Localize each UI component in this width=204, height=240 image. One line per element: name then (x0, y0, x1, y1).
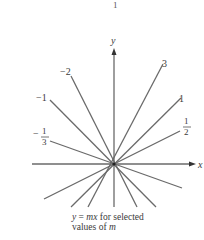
line-family-diagram: x y 3 1 1 2 − 1 3 −1 −2 (0, 0, 204, 240)
caption-line-1: y = mx for selected (72, 212, 144, 222)
svg-text:2: 2 (184, 127, 189, 137)
svg-text:3: 3 (42, 137, 47, 147)
label-m-neg-third: − 1 3 (33, 126, 49, 147)
svg-text:1: 1 (42, 126, 47, 136)
x-axis-arrow-icon (189, 162, 196, 167)
label-m-3: 3 (162, 58, 167, 69)
svg-text:−: − (33, 128, 39, 139)
label-m-neg-2: −2 (60, 66, 71, 77)
x-axis-label: x (197, 159, 203, 170)
line-m-neg-1 (50, 100, 156, 207)
label-m-neg-1: −1 (36, 92, 47, 103)
label-m-1: 1 (179, 93, 184, 104)
figure-caption: y = mx for selected values of m (72, 212, 144, 232)
line-m-half (44, 131, 180, 199)
svg-text:1: 1 (184, 116, 189, 126)
line-m-1 (71, 98, 181, 207)
y-axis-arrow-icon (112, 48, 117, 55)
caption-line-2: values of m (72, 222, 144, 232)
line-m-neg-2 (71, 76, 137, 207)
label-m-half: 1 2 (183, 116, 191, 137)
y-axis-label: y (110, 35, 116, 46)
origin-dot (112, 162, 115, 165)
lines (44, 64, 182, 207)
